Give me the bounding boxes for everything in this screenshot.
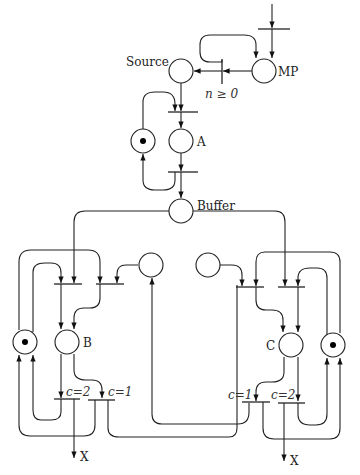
label-source: Source: [126, 55, 169, 69]
place-mid-right: [196, 253, 220, 277]
label-guard: n ≥ 0: [205, 87, 238, 101]
label-mp: MP: [278, 65, 298, 79]
bl2-to-mid-right-route: [108, 285, 237, 437]
label-c: C: [266, 339, 275, 353]
label-a: A: [196, 135, 206, 149]
place-b: [55, 330, 79, 354]
place-source: [169, 59, 193, 83]
token-icon: [22, 339, 28, 345]
place-buffer: [169, 199, 193, 223]
label-b-out-2: c=2: [66, 385, 90, 399]
label-b: B: [83, 336, 92, 350]
label-b-out-1: c=1: [108, 385, 132, 399]
control-c-to-tr2-arc: [298, 268, 327, 335]
cr2-to-control-c-arc: [298, 358, 327, 425]
control-b-to-tl1-arc: [33, 263, 61, 332]
place-mid-left: [139, 253, 163, 277]
control-a-to-t1-arc: [143, 92, 175, 129]
label-c-out-2: c=2: [271, 388, 295, 402]
place-a: [169, 129, 193, 153]
mid-left-to-tl2-arc: [117, 265, 138, 283]
bl1-to-control-b-arc: [33, 355, 61, 420]
tr1-to-c-arc: [256, 287, 283, 332]
guard-loop-arc: [200, 35, 256, 62]
control-b-to-tl2-arc: [19, 250, 100, 330]
place-mp: [252, 59, 276, 83]
token-icon: [330, 342, 336, 348]
label-right-exit: X: [290, 454, 299, 468]
place-c: [279, 333, 303, 357]
mid-right-to-tr1-arc: [220, 265, 242, 286]
tl2-to-b-arc: [74, 284, 100, 329]
label-left-exit: X: [80, 450, 89, 464]
mp-input-arc: [258, 4, 290, 58]
label-c-out-1: c=1: [228, 388, 252, 402]
diagram-svg: MP Source n ≥ 0 A Buffer B c=2 c=1 X: [0, 0, 360, 475]
cr1-to-mid-left-arc: [152, 278, 249, 424]
petri-net-diagram: MP Source n ≥ 0 A Buffer B c=2 c=1 X: [0, 0, 360, 475]
token-icon: [140, 138, 146, 144]
